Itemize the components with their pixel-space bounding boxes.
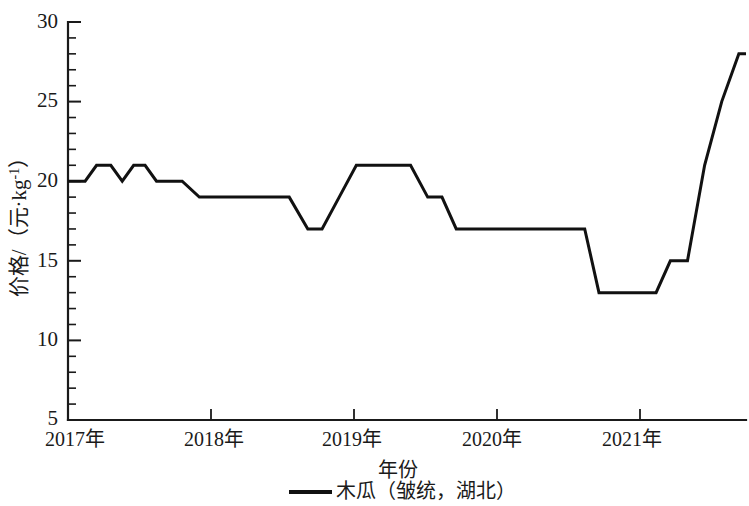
x-tick-label-2021: 2021年 bbox=[602, 428, 662, 450]
y-tick-label-25: 25 bbox=[37, 88, 58, 112]
y-minor-ticks bbox=[68, 38, 76, 404]
legend-label-mugua: 木瓜（皱统，湖北） bbox=[336, 480, 516, 502]
y-axis-title-main: 价格/（元·kg bbox=[7, 179, 31, 297]
x-ticks bbox=[68, 409, 640, 420]
y-axis-title-tail: ） bbox=[7, 147, 31, 168]
x-axis-title: 年份 bbox=[378, 459, 418, 481]
x-tick-label-2017: 2017年 bbox=[45, 428, 105, 450]
y-axis-title: 价格/（元·kg-1） bbox=[7, 147, 32, 298]
y-tick-label-5: 5 bbox=[48, 406, 59, 430]
x-tick-label-2020: 2020年 bbox=[462, 428, 522, 450]
chart-figure: 30 25 20 15 10 5 2017年 2018年 2019年 2020年… bbox=[0, 0, 749, 506]
y-tick-label-10: 10 bbox=[37, 327, 58, 351]
series-line-mugua bbox=[68, 54, 746, 293]
svg-text:价格/（元·kg-1）: 价格/（元·kg-1） bbox=[7, 147, 32, 298]
y-axis-title-exponent: -1 bbox=[7, 168, 22, 180]
y-tick-label-30: 30 bbox=[37, 9, 58, 33]
x-tick-label-2018: 2018年 bbox=[184, 428, 244, 450]
chart-legend: 木瓜（皱统，湖北） bbox=[289, 480, 516, 502]
x-tick-label-2019: 2019年 bbox=[322, 428, 382, 450]
price-line-chart: 30 25 20 15 10 5 2017年 2018年 2019年 2020年… bbox=[0, 0, 749, 506]
y-major-ticks bbox=[68, 22, 81, 420]
y-tick-label-20: 20 bbox=[37, 168, 58, 192]
y-tick-label-15: 15 bbox=[37, 248, 58, 272]
